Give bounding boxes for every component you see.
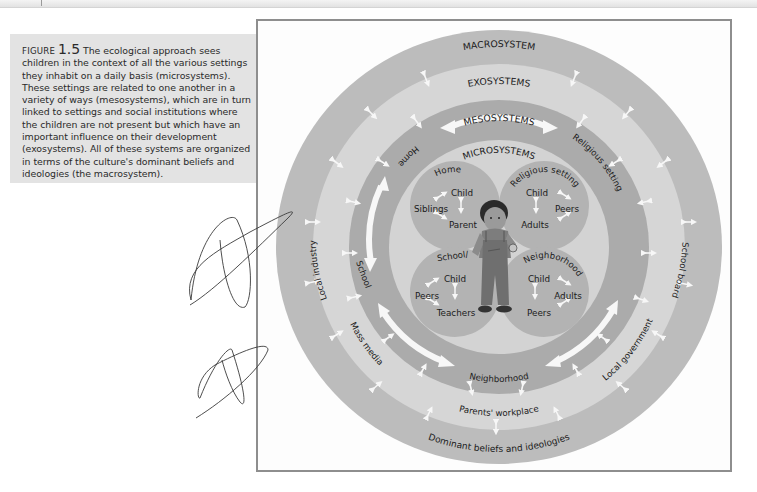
- member-child: Child: [451, 188, 473, 198]
- member-child: Child: [526, 188, 548, 198]
- member-siblings: Siblings: [414, 204, 449, 214]
- member-peers: Peers: [415, 291, 439, 301]
- member-parent: Parent: [449, 220, 478, 230]
- member-peers: Peers: [555, 204, 579, 214]
- member-adults: Adults: [554, 291, 582, 301]
- member-adults: Adults: [521, 220, 549, 230]
- member-child: Child: [444, 274, 466, 284]
- member-peers: Peers: [527, 308, 551, 318]
- ecological-diagram: MACROSYSTEM EXOSYSTEMS MESOSYSTEMS MICRO…: [0, 0, 757, 492]
- member-teachers: Teachers: [436, 308, 476, 318]
- member-child: Child: [528, 274, 550, 284]
